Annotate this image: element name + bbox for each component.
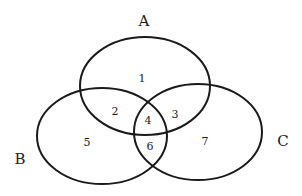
region-a-b: 2: [112, 105, 119, 118]
region-b-c: 6: [147, 140, 154, 153]
region-c-only: 7: [202, 135, 209, 148]
set-b-label: B: [14, 150, 25, 168]
set-c-ellipse: [134, 84, 262, 180]
region-a-c: 3: [172, 108, 179, 121]
set-a-label: A: [138, 12, 150, 30]
region-a-b-c: 4: [145, 114, 152, 127]
region-b-only: 5: [84, 136, 91, 149]
set-c-label: C: [277, 132, 288, 150]
venn-diagram: A B C 1 2 3 4 5 6 7: [0, 0, 302, 196]
region-a-only: 1: [139, 72, 146, 85]
